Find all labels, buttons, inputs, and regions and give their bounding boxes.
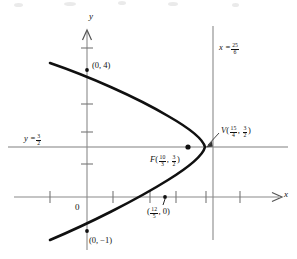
point-y-intercept-lower [85,229,89,233]
label-directrix: x =256 [219,43,239,56]
x-intercept-leader [163,199,165,205]
vertex-pointer-arrowhead [207,142,213,148]
point-focus [185,144,190,149]
focus-y-fraction: 32 [172,155,177,168]
vertex-x-fraction: 154 [230,126,238,139]
label-vertex: V(154, 32) [221,126,251,139]
axis-of-symmetry-lhs: y = [24,133,36,143]
axis-of-symmetry-denominator: 2 [36,141,41,147]
focus-x-denominator: 3 [159,162,167,168]
directrix-fraction: 256 [231,43,239,56]
x-intercept-denominator: 5 [150,214,158,220]
vertex-x-denominator: 4 [230,133,238,139]
label-y-intercept-upper: (0, 4) [92,61,110,70]
y-axis-label: y [89,12,93,21]
origin-label: 0 [75,203,80,212]
directrix-lhs: x = [219,42,231,52]
vertex-y-fraction: 32 [243,126,248,139]
focus-y-denominator: 2 [172,162,177,168]
coordinate-plane [0,0,297,259]
point-y-intercept-upper [85,68,89,72]
x-axis-label: x [284,190,288,199]
x-intercept-rest: , 0) [159,206,170,216]
axis-of-symmetry-fraction: 32 [36,134,41,147]
point-x-intercept [163,195,167,199]
parabola-curve [50,63,205,240]
directrix-denominator: 6 [231,50,239,56]
focus-x-fraction: 103 [159,155,167,168]
focus-close-paren: ) [177,154,180,164]
label-y-intercept-lower: (0, −1) [89,236,112,245]
label-axis-of-symmetry: y =32 [24,134,42,147]
vertex-y-denominator: 2 [243,133,248,139]
parabola-figure: y x 0 (0, 4) (0, −1) (125, 0) F(103, 32)… [0,0,297,259]
vertex-comma: , [238,125,242,135]
label-x-intercept: (125, 0) [147,207,170,220]
label-focus: F(103, 32) [150,155,180,168]
vertex-close-paren: ) [248,125,251,135]
focus-comma: , [167,154,171,164]
x-intercept-fraction: 125 [150,207,158,220]
